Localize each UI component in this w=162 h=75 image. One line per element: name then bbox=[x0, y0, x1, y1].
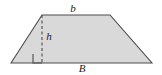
height-label: h bbox=[46, 31, 52, 42]
top-base-label: b bbox=[70, 3, 76, 14]
trapezoid-shape bbox=[11, 15, 152, 63]
bottom-base-label: B bbox=[79, 63, 86, 74]
trapezoid-figure: b h B bbox=[0, 0, 162, 75]
